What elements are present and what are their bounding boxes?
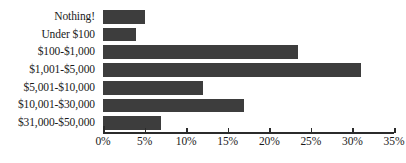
- x-axis-tick-label: 5%: [137, 136, 152, 148]
- plot-area: [103, 8, 394, 132]
- x-axis-tick-label: 30%: [342, 136, 363, 148]
- bar: [103, 45, 298, 59]
- category-label: $5,001-$10,000: [24, 82, 95, 94]
- category-row: $1,001-$5,000: [0, 61, 99, 79]
- bar-row: [103, 26, 394, 44]
- bar-row: [103, 114, 394, 132]
- category-label: $100-$1,000: [38, 47, 95, 59]
- bar-row: [103, 97, 394, 115]
- x-axis-tick-label: 25%: [300, 136, 321, 148]
- bar: [103, 28, 136, 42]
- bar-row: [103, 61, 394, 79]
- bar: [103, 63, 361, 77]
- x-axis-tick-label: 35%: [384, 136, 405, 148]
- bar: [103, 10, 145, 24]
- category-label: $1,001-$5,000: [29, 64, 95, 76]
- bar: [103, 81, 203, 95]
- bar-row: [103, 43, 394, 61]
- bar-chart: Nothing! Under $100 $100-$1,000 $1,001-$…: [0, 0, 406, 163]
- category-row: Nothing!: [0, 8, 99, 26]
- bar-row: [103, 79, 394, 97]
- x-axis-tick: [145, 128, 147, 133]
- category-label: $10,001-$30,000: [18, 100, 95, 112]
- category-row: Under $100: [0, 26, 99, 44]
- bar: [103, 99, 244, 113]
- x-axis-tick: [352, 128, 354, 133]
- bar-row: [103, 8, 394, 26]
- x-axis-tick-label: 15%: [217, 136, 238, 148]
- x-axis-tick: [228, 128, 230, 133]
- x-axis-tick: [269, 128, 271, 133]
- x-axis-tick-label: 20%: [259, 136, 280, 148]
- category-row: $5,001-$10,000: [0, 79, 99, 97]
- category-label: $31,000-$50,000: [18, 117, 95, 129]
- category-row: $10,001-$30,000: [0, 97, 99, 115]
- category-row: $31,000-$50,000: [0, 114, 99, 132]
- category-axis-labels: Nothing! Under $100 $100-$1,000 $1,001-$…: [0, 8, 99, 132]
- x-axis-tick-label: 0%: [95, 136, 110, 148]
- x-axis-tick-label: 10%: [176, 136, 197, 148]
- x-axis-line: [103, 132, 394, 134]
- x-axis-tick: [394, 128, 396, 133]
- category-row: $100-$1,000: [0, 43, 99, 61]
- category-label: Nothing!: [54, 11, 95, 23]
- bar: [103, 116, 161, 130]
- category-label: Under $100: [41, 29, 95, 41]
- x-axis-tick: [186, 128, 188, 133]
- x-axis-tick: [311, 128, 313, 133]
